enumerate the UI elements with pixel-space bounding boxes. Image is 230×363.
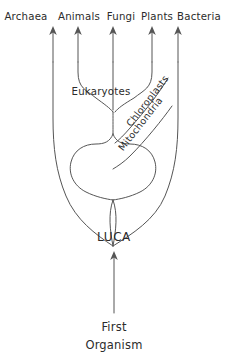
tip-label-bacteria: Bacteria <box>177 11 221 22</box>
archaeal-host-loop <box>70 134 113 200</box>
inner-label-eukaryotes: Eukaryotes <box>72 86 131 97</box>
tip-label-fungi: Fungi <box>107 11 136 22</box>
tip-label-animals: Animals <box>58 11 100 22</box>
tip-label-plants: Plants <box>141 11 173 22</box>
bacteria-arrow <box>174 26 182 62</box>
root-label-first-organism-line-2: Organism <box>85 338 142 352</box>
root-label-luca: LUCA <box>97 230 131 244</box>
plants-arrow <box>148 26 156 62</box>
tree-of-life-diagram: Archaea Animals Fungi Plants Bacteria Eu… <box>0 0 230 363</box>
animals-arrow <box>74 26 82 62</box>
tree-of-life-svg: Archaea Animals Fungi Plants Bacteria Eu… <box>0 0 230 363</box>
tip-label-archaea: Archaea <box>4 11 47 22</box>
fungi-arrow <box>109 26 117 62</box>
first-organism-arrow <box>110 251 118 313</box>
archaea-arrow <box>49 26 57 62</box>
root-label-first-organism-line-1: First <box>101 320 126 334</box>
